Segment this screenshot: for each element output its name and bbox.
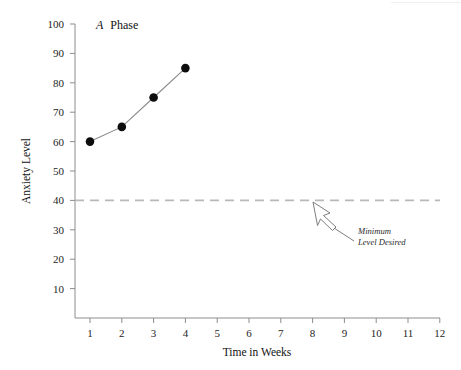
x-tick-label: 11 (403, 327, 414, 339)
y-tick-label: 60 (53, 136, 65, 148)
annotation-line-1: Minimum (357, 226, 391, 236)
x-tick-label: 6 (246, 327, 252, 339)
y-tick-label: 90 (53, 47, 65, 59)
series-markers (86, 64, 190, 146)
series-line-anxiety-level (90, 68, 185, 142)
x-axis-tick-labels: 1 2 3 4 5 6 7 8 9 10 11 12 (87, 327, 445, 339)
data-point-week-2 (118, 123, 127, 132)
data-point-week-1 (86, 137, 95, 146)
x-tick-label: 5 (214, 327, 220, 339)
y-tick-label: 50 (53, 165, 65, 177)
y-tick-label: 100 (48, 18, 65, 30)
data-point-week-4 (181, 64, 190, 73)
y-tick-label: 80 (53, 77, 65, 89)
x-tick-label: 4 (183, 327, 189, 339)
x-tick-label: 7 (278, 327, 284, 339)
y-tick-label: 30 (53, 224, 65, 236)
x-tick-label: 2 (119, 327, 125, 339)
y-tick-label: 40 (53, 194, 65, 206)
x-tick-label: 1 (87, 327, 93, 339)
annotation-arrow-icon (313, 202, 354, 241)
y-axis-ticks (70, 24, 75, 289)
y-axis-tick-labels: 100 90 80 70 60 50 40 30 20 10 (48, 18, 65, 295)
y-tick-label: 70 (53, 106, 65, 118)
y-axis-title: Anxiety Level (20, 138, 33, 204)
x-tick-label: 3 (151, 327, 157, 339)
x-tick-label: 9 (342, 327, 348, 339)
y-tick-label: 10 (53, 283, 65, 295)
chart-title-italic: A (95, 18, 104, 32)
annotation-line-2: Level Desired (357, 237, 406, 247)
x-tick-label: 10 (371, 327, 383, 339)
x-tick-label: 8 (310, 327, 316, 339)
chart-title: A Phase (95, 18, 138, 32)
x-tick-label: 12 (434, 327, 445, 339)
x-axis-ticks (90, 318, 440, 323)
chart-title-roman: Phase (110, 18, 138, 32)
line-chart-canvas: 100 90 80 70 60 50 40 30 20 10 (0, 0, 461, 370)
chart-figure: 100 90 80 70 60 50 40 30 20 10 (0, 0, 461, 370)
data-point-week-3 (149, 93, 158, 102)
y-tick-label: 20 (53, 253, 65, 265)
x-axis-title: Time in Weeks (223, 346, 292, 358)
